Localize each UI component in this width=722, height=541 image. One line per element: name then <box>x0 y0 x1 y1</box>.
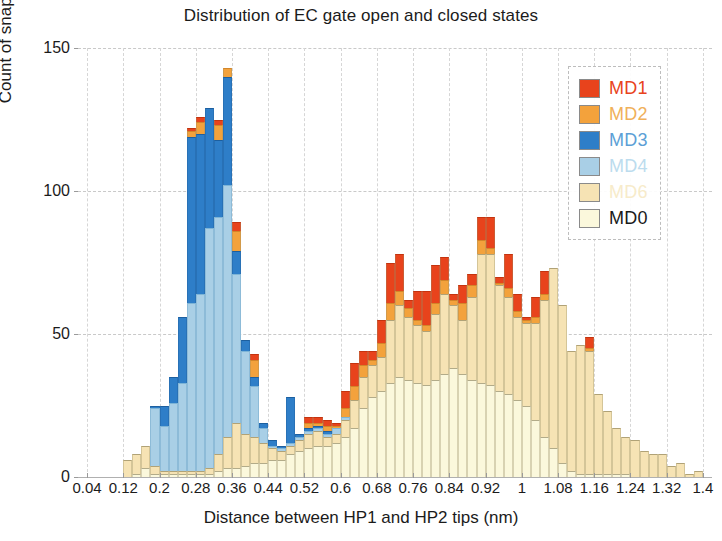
bar-segment-md0 <box>268 460 277 477</box>
bar-segment-md0 <box>422 385 431 477</box>
x-tick-label: 0.6 <box>330 479 351 496</box>
histogram-bar <box>141 446 150 477</box>
x-tick-label: 1.24 <box>616 479 645 496</box>
chart-figure: Distribution of EC gate open and closed … <box>0 0 722 541</box>
bar-segment-md4 <box>196 294 205 471</box>
bar-segment-md4 <box>178 383 187 472</box>
bar-segment-md3 <box>241 340 250 351</box>
bar-segment-md2 <box>223 68 232 77</box>
x-tick-mark <box>123 473 124 478</box>
x-tick-mark <box>703 473 704 478</box>
bar-segment-md1 <box>413 291 422 320</box>
histogram-bar <box>196 117 205 477</box>
bar-segment-md0 <box>241 466 250 477</box>
histogram-bar <box>640 451 649 477</box>
bar-segment-md1 <box>440 257 449 280</box>
legend-item-md4[interactable]: MD4 <box>579 153 648 179</box>
bar-segment-md4 <box>232 274 241 423</box>
histogram-bar <box>169 377 178 477</box>
bar-segment-md6 <box>223 437 232 468</box>
bar-segment-md6 <box>531 323 540 420</box>
bar-segment-md6 <box>621 437 630 474</box>
legend-item-md0[interactable]: MD0 <box>579 205 648 231</box>
histogram-bar <box>449 294 458 477</box>
bar-segment-md0 <box>141 468 150 477</box>
histogram-bar <box>368 351 377 477</box>
x-tick-label: 1.4 <box>693 479 714 496</box>
histogram-bar <box>513 294 522 477</box>
bar-segment-md6 <box>558 305 567 462</box>
bar-segment-md2 <box>404 308 413 317</box>
bar-segment-md6 <box>404 317 413 380</box>
bar-segment-md1 <box>350 363 359 386</box>
bar-segment-md3 <box>187 137 196 303</box>
x-tick-mark <box>160 473 161 478</box>
bar-segment-md0 <box>404 380 413 477</box>
legend-item-md1[interactable]: MD1 <box>579 75 648 101</box>
bar-segment-md3 <box>232 251 241 274</box>
legend-label: MD0 <box>609 208 648 229</box>
bar-segment-md2 <box>232 231 241 251</box>
legend-item-md6[interactable]: MD6 <box>579 179 648 205</box>
x-tick-label: 0.28 <box>181 479 210 496</box>
bar-segment-md1 <box>504 254 513 288</box>
bar-segment-md6 <box>440 294 449 374</box>
histogram-bar <box>123 460 132 477</box>
bar-segment-md0 <box>549 448 558 477</box>
bar-segment-md2 <box>341 408 350 417</box>
bar-segment-md6 <box>549 268 558 448</box>
bar-segment-md4 <box>223 185 232 437</box>
bar-segment-md4 <box>160 426 169 472</box>
bar-segment-md6 <box>150 466 159 475</box>
x-tick-mark <box>304 473 305 478</box>
histogram-bar <box>241 340 250 477</box>
bar-segment-md0 <box>522 406 531 478</box>
histogram-bar <box>576 345 585 477</box>
legend-label: MD1 <box>609 78 648 99</box>
bar-segment-md1 <box>232 222 241 231</box>
bar-segment-md0 <box>368 397 377 477</box>
bar-segment-md4 <box>169 403 178 472</box>
histogram-bar <box>676 463 685 477</box>
legend-swatch-icon <box>579 183 600 202</box>
bar-segment-md0 <box>223 468 232 477</box>
bar-segment-md4 <box>187 303 196 472</box>
histogram-bar <box>250 354 259 477</box>
bar-segment-md6 <box>413 325 422 382</box>
x-axis-ticks: 0.040.120.20.280.360.440.520.60.680.760.… <box>0 479 722 503</box>
histogram-bar <box>160 406 169 477</box>
bar-segment-md0 <box>495 391 504 477</box>
bar-segment-md6 <box>513 317 522 400</box>
histogram-bar <box>214 120 223 477</box>
bar-segment-md0 <box>467 380 476 477</box>
legend-item-md2[interactable]: MD2 <box>579 101 648 127</box>
bar-segment-md2 <box>458 303 467 320</box>
legend-swatch-icon <box>579 79 600 98</box>
bar-segment-md1 <box>368 351 377 360</box>
histogram-bar <box>304 417 313 477</box>
histogram-bar <box>350 363 359 477</box>
bar-segment-md0 <box>413 383 422 477</box>
bar-segment-md6 <box>458 320 467 374</box>
bar-segment-md6 <box>522 323 531 406</box>
bar-segment-md1 <box>386 263 395 303</box>
bar-segment-md0 <box>277 460 286 477</box>
histogram-bar <box>486 217 495 477</box>
y-tick-label: 150 <box>18 39 70 57</box>
histogram-bar <box>223 68 232 477</box>
bar-segment-md6 <box>449 305 458 368</box>
bar-segment-md0 <box>513 400 522 477</box>
legend-item-md3[interactable]: MD3 <box>579 127 648 153</box>
bar-segment-md3 <box>178 317 187 383</box>
bar-segment-md6 <box>630 440 639 477</box>
histogram-bar <box>567 351 576 477</box>
bar-segment-md2 <box>467 285 476 296</box>
histogram-bar <box>386 263 395 477</box>
bar-segment-md1 <box>404 300 413 309</box>
bar-segment-md1 <box>377 320 386 343</box>
bar-segment-md0 <box>250 463 259 477</box>
x-tick-label: 0.12 <box>109 479 138 496</box>
histogram-bar <box>522 317 531 477</box>
bar-segment-md2 <box>386 303 395 320</box>
histogram-bar <box>259 423 268 477</box>
